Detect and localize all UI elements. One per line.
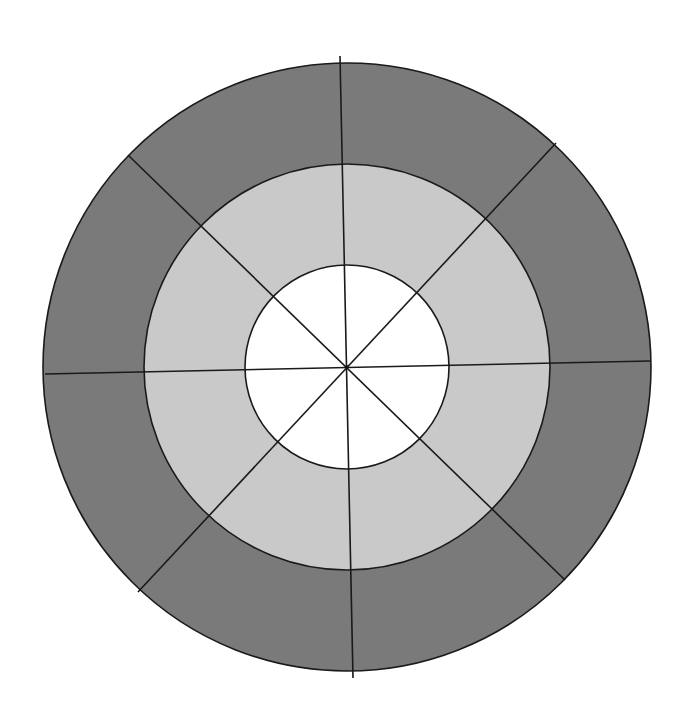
concentric-sector-diagram bbox=[0, 0, 690, 718]
center-point bbox=[345, 365, 349, 369]
